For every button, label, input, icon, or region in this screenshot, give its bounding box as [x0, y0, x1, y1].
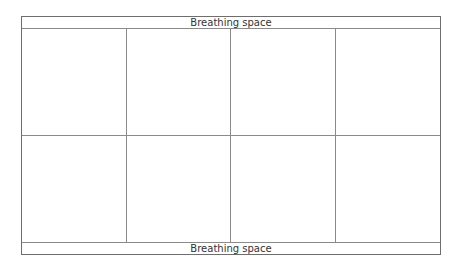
grid-cell-r2-c3 — [231, 136, 336, 243]
panel-grid — [22, 29, 440, 242]
grid-cell-r2-c1 — [22, 136, 127, 243]
header-band: Breathing space — [22, 17, 440, 29]
grid-cell-r1-c1 — [22, 29, 127, 136]
layout-frame: Breathing space Breathing space — [21, 16, 441, 255]
footer-band: Breathing space — [22, 242, 440, 254]
grid-cell-r1-c2 — [127, 29, 232, 136]
grid-cell-r2-c4 — [336, 136, 441, 243]
grid-cell-r2-c2 — [127, 136, 232, 243]
grid-cell-r1-c3 — [231, 29, 336, 136]
grid-cell-r1-c4 — [336, 29, 441, 136]
